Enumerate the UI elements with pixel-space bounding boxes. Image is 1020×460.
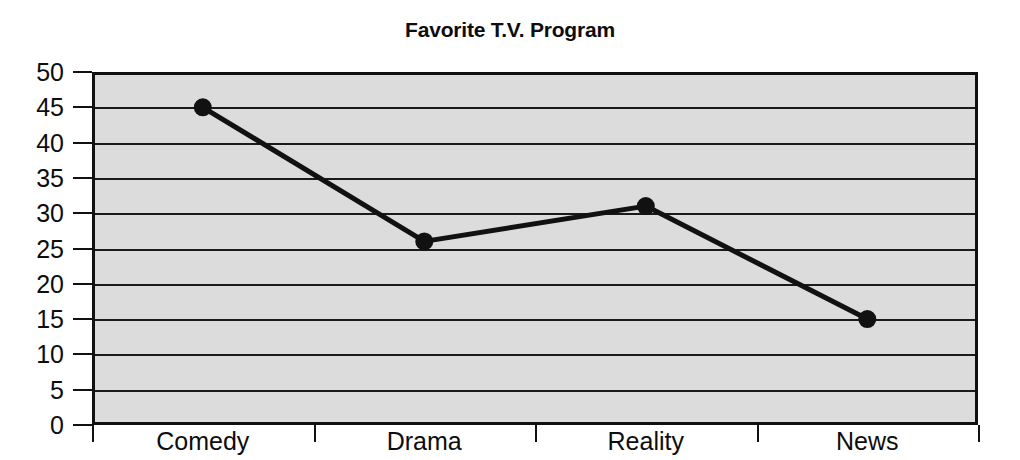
x-tick-mark (92, 425, 94, 442)
gridline (95, 284, 975, 286)
y-tick-mark (73, 106, 92, 108)
x-tick-mark (314, 425, 316, 442)
y-tick-mark (73, 212, 92, 214)
y-tick-label: 5 (50, 377, 64, 402)
y-tick-label: 50 (36, 60, 64, 85)
y-tick-mark (73, 248, 92, 250)
y-tick-mark (73, 283, 92, 285)
y-tick-label: 30 (36, 201, 64, 226)
y-axis: 05101520253035404550 (0, 0, 92, 460)
y-tick-label: 15 (36, 307, 64, 332)
x-tick-mark (757, 425, 759, 442)
y-tick-mark (73, 424, 92, 426)
gridline (95, 107, 975, 109)
gridline (95, 178, 975, 180)
gridline (95, 143, 975, 145)
y-tick-mark (73, 318, 92, 320)
y-tick-label: 20 (36, 271, 64, 296)
x-tick-mark (978, 425, 980, 442)
x-tick-label-reality: Reality (608, 428, 684, 456)
y-tick-mark (73, 142, 92, 144)
chart-title: Favorite T.V. Program (0, 18, 1020, 42)
y-tick-label: 25 (36, 236, 64, 261)
plot-area (92, 72, 978, 425)
y-tick-label: 10 (36, 342, 64, 367)
x-tick-mark (535, 425, 537, 442)
y-tick-label: 35 (36, 165, 64, 190)
x-tick-label-drama: Drama (387, 428, 462, 456)
x-tick-label-comedy: Comedy (156, 428, 249, 456)
gridline (95, 390, 975, 392)
chart-figure: Favorite T.V. Program 051015202530354045… (0, 0, 1020, 460)
gridline (95, 213, 975, 215)
y-tick-label: 0 (50, 413, 64, 438)
x-tick-label-news: News (836, 428, 899, 456)
y-tick-mark (73, 177, 92, 179)
y-tick-label: 40 (36, 130, 64, 155)
gridline (95, 249, 975, 251)
y-tick-label: 45 (36, 95, 64, 120)
y-tick-mark (73, 353, 92, 355)
y-tick-mark (73, 71, 92, 73)
gridline (95, 354, 975, 356)
y-tick-mark (73, 389, 92, 391)
gridline (95, 319, 975, 321)
